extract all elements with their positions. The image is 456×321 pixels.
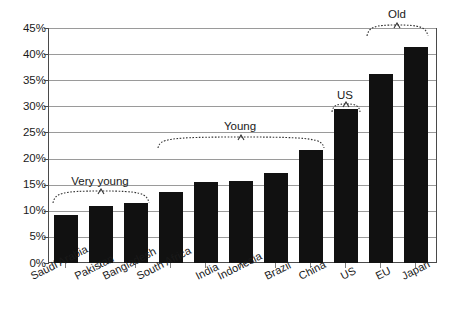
bar-japan[interactable]	[404, 47, 428, 263]
y-tick-label-30: 30%	[6, 101, 46, 113]
x-tick-mark	[170, 263, 171, 268]
bar-pakistan[interactable]	[89, 206, 113, 263]
bar-india[interactable]	[194, 182, 218, 263]
y-tick-label-25: 25%	[6, 127, 46, 139]
annotation-us-label: US	[315, 90, 375, 102]
x-tick-label-india: India	[194, 261, 220, 282]
annotation-old-brace	[366, 22, 429, 37]
x-tick-mark	[205, 263, 206, 268]
x-tick-mark	[310, 263, 311, 268]
bar-south-africa[interactable]	[159, 192, 183, 263]
annotation-young-label: Young	[180, 121, 300, 133]
annotation-very-young-brace	[52, 188, 150, 204]
x-tick-mark	[100, 263, 101, 268]
x-tick-mark	[345, 263, 346, 268]
x-tick-label-us: US	[339, 265, 358, 282]
y-tick-mark	[44, 263, 49, 264]
bar-eu[interactable]	[369, 74, 393, 263]
x-tick-mark	[135, 263, 136, 268]
annotation-us-brace	[331, 101, 361, 113]
bar-brazil[interactable]	[264, 173, 288, 263]
x-tick-mark	[65, 263, 66, 268]
y-tick-label-40: 40%	[6, 49, 46, 61]
bar-bangladesh[interactable]	[124, 203, 148, 263]
gridline-40	[49, 54, 436, 55]
x-tick-mark	[240, 263, 241, 268]
y-tick-label-10: 10%	[6, 205, 46, 217]
y-tick-label-0: 0%	[6, 258, 46, 270]
x-tick-label-eu: EU	[374, 265, 393, 282]
bar-indonesia[interactable]	[229, 181, 253, 264]
y-tick-label-35: 35%	[6, 75, 46, 87]
y-tick-label-45: 45%	[6, 23, 46, 35]
bar-china[interactable]	[299, 150, 323, 263]
y-axis: 45% 40% 35% 30% 25% 20% 15% 10% 5% 0%	[0, 0, 46, 321]
bar-us[interactable]	[334, 109, 358, 263]
annotation-young-brace	[157, 133, 325, 149]
x-tick-mark	[275, 263, 276, 268]
y-tick-label-5: 5%	[6, 231, 46, 243]
x-tick-mark	[380, 263, 381, 268]
annotation-old-label: Old	[367, 9, 427, 21]
y-tick-label-20: 20%	[6, 153, 46, 165]
x-tick-mark	[415, 263, 416, 268]
bar-saudi-arabia[interactable]	[54, 215, 78, 263]
chart-figure: 45% 40% 35% 30% 25% 20% 15% 10% 5% 0%	[0, 0, 456, 321]
annotation-very-young-label: Very young	[40, 176, 160, 188]
